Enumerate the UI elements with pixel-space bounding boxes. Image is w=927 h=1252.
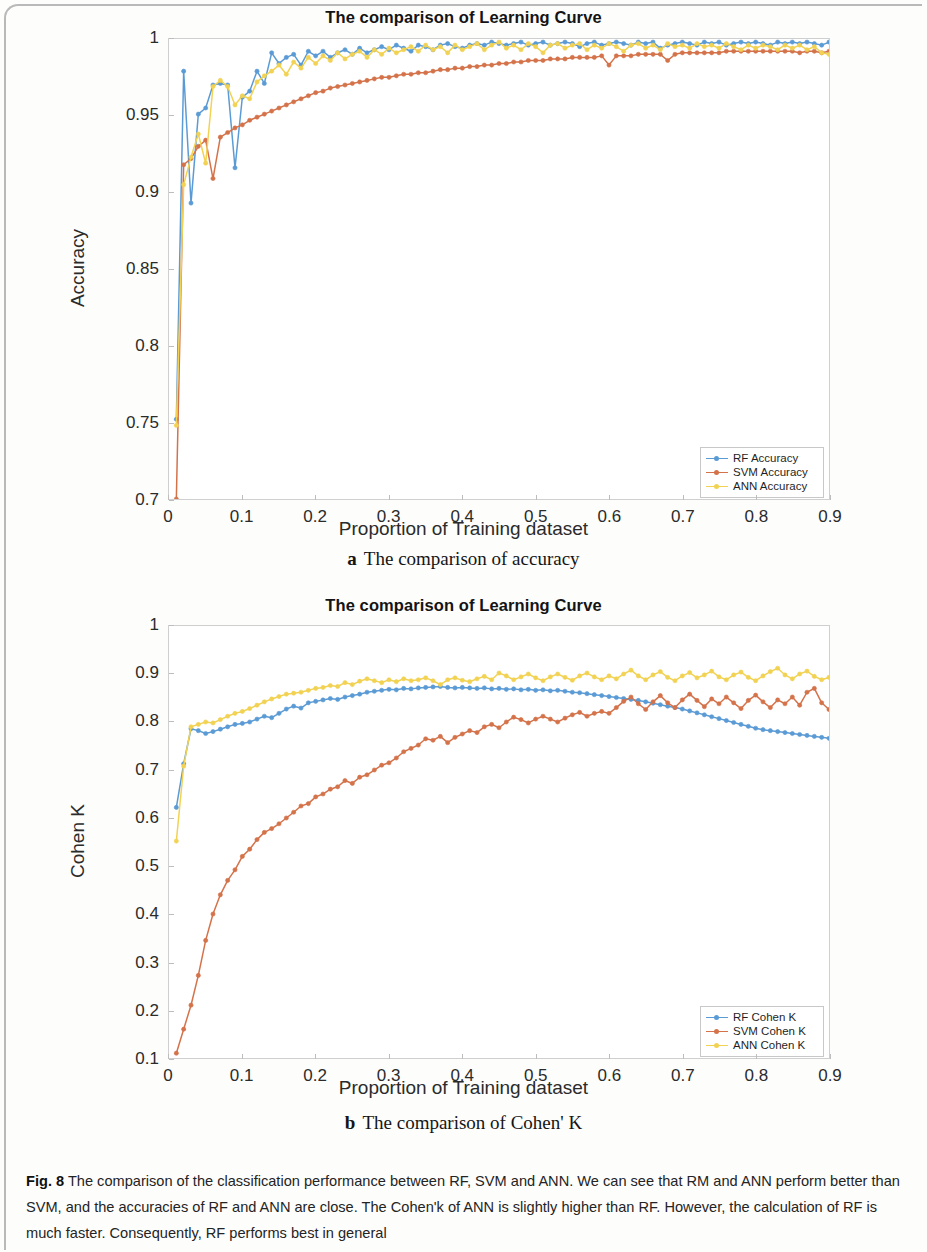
y-tick-label: 0.2: [135, 1001, 159, 1021]
legend-label: SVM Accuracy: [733, 466, 808, 478]
x-tick-label: 0.2: [303, 507, 327, 527]
x-tick-mark: [683, 495, 684, 500]
x-tick-label: 0.5: [524, 1066, 548, 1086]
y-tick-mark: [169, 115, 174, 116]
y-tick-label: 0.5: [135, 856, 159, 876]
series-rf-cohen-k: [174, 684, 829, 809]
x-tick-label: 0.6: [598, 507, 622, 527]
y-tick-mark: [169, 346, 174, 347]
y-tick-mark: [169, 38, 174, 39]
legend-label: RF Cohen K: [733, 1011, 796, 1023]
y-tick-label: 0.75: [126, 413, 159, 433]
y-tick-mark: [169, 818, 174, 819]
x-tick-mark: [609, 1054, 610, 1059]
legend-label: ANN Cohen K: [733, 1039, 805, 1051]
legend-item: SVM Accuracy: [706, 465, 817, 479]
x-tick-label: 0: [163, 507, 172, 527]
x-tick-label: 0.8: [745, 507, 769, 527]
y-tick-mark: [169, 866, 174, 867]
legend-line-marker-icon: [706, 486, 728, 487]
legend-label: RF Accuracy: [733, 452, 798, 464]
accuracy-plot-area: [168, 38, 830, 500]
y-tick-label: 0.8: [135, 711, 159, 731]
y-tick-mark: [169, 625, 174, 626]
x-tick-mark: [756, 495, 757, 500]
legend-item: RF Accuracy: [706, 451, 817, 465]
accuracy-y-axis-label: Accuracy: [67, 168, 89, 368]
y-tick-mark: [169, 269, 174, 270]
legend-line-marker-icon: [706, 472, 728, 473]
x-tick-label: 0.4: [450, 1066, 474, 1086]
x-tick-mark: [389, 1054, 390, 1059]
x-tick-mark: [683, 1054, 684, 1059]
cohen-k-chart-title: The comparison of Learning Curve: [0, 596, 927, 615]
x-tick-label: 0.6: [598, 1066, 622, 1086]
x-tick-label: 0.7: [671, 1066, 695, 1086]
y-tick-mark: [169, 721, 174, 722]
y-tick-label: 0.85: [126, 259, 159, 279]
cohen-k-chart: The comparison of Learning Curve Cohen K…: [0, 592, 927, 1112]
legend-item: RF Cohen K: [706, 1010, 817, 1024]
x-tick-mark: [315, 495, 316, 500]
accuracy-legend: RF AccuracySVM AccuracyANN Accuracy: [700, 447, 824, 498]
y-tick-label: 0.3: [135, 953, 159, 973]
x-tick-mark: [168, 1054, 169, 1059]
y-tick-mark: [169, 963, 174, 964]
y-tick-mark: [169, 770, 174, 771]
x-tick-mark: [242, 495, 243, 500]
y-tick-label: 0.9: [135, 663, 159, 683]
y-tick-label: 0.8: [135, 336, 159, 356]
legend-line-marker-icon: [706, 1045, 728, 1046]
legend-label: ANN Accuracy: [733, 480, 807, 492]
series-svm-cohen-k: [174, 686, 829, 1055]
subcaption-b-letter: b: [345, 1112, 356, 1133]
x-tick-mark: [536, 495, 537, 500]
x-tick-mark: [168, 495, 169, 500]
x-tick-mark: [462, 1054, 463, 1059]
x-tick-label: 0.5: [524, 507, 548, 527]
series-svm-accuracy: [174, 49, 829, 499]
y-tick-label: 1: [150, 28, 159, 48]
x-tick-label: 0.4: [450, 507, 474, 527]
y-tick-mark: [169, 192, 174, 193]
x-tick-label: 0.2: [303, 1066, 327, 1086]
x-tick-mark: [536, 1054, 537, 1059]
x-tick-mark: [830, 1054, 831, 1059]
x-tick-mark: [830, 495, 831, 500]
y-tick-mark: [169, 500, 174, 501]
x-tick-mark: [609, 495, 610, 500]
y-tick-mark: [169, 673, 174, 674]
legend-item: SVM Cohen K: [706, 1024, 817, 1038]
x-tick-mark: [315, 1054, 316, 1059]
series-ann-accuracy: [174, 40, 829, 428]
x-tick-mark: [242, 1054, 243, 1059]
y-tick-label: 0.95: [126, 105, 159, 125]
y-tick-mark: [169, 1011, 174, 1012]
figure-8: The comparison of Learning Curve Accurac…: [0, 0, 927, 1252]
y-tick-mark: [169, 423, 174, 424]
subcaption-b-text: The comparison of Cohen' K: [362, 1112, 582, 1133]
accuracy-chart: The comparison of Learning Curve Accurac…: [0, 0, 927, 560]
y-tick-label: 0.1: [135, 1049, 159, 1069]
x-tick-label: 0.7: [671, 507, 695, 527]
x-tick-label: 0.9: [818, 507, 842, 527]
legend-line-marker-icon: [706, 1017, 728, 1018]
y-tick-label: 0.7: [135, 760, 159, 780]
figure-caption-label: Fig. 8: [26, 1173, 64, 1189]
subcaption-a-letter: a: [347, 548, 357, 569]
cohen-k-y-axis-label: Cohen K: [67, 741, 89, 941]
x-tick-mark: [756, 1054, 757, 1059]
x-tick-mark: [462, 495, 463, 500]
y-tick-mark: [169, 914, 174, 915]
cohen-k-plot-area: [168, 625, 830, 1059]
x-tick-label: 0: [163, 1066, 172, 1086]
subcaption-a-text: The comparison of accuracy: [364, 548, 580, 569]
figure-caption-text: The comparison of the classification per…: [26, 1173, 900, 1241]
scanned-page: The comparison of Learning Curve Accurac…: [0, 0, 927, 1252]
x-tick-label: 0.3: [377, 507, 401, 527]
cohen-k-legend: RF Cohen KSVM Cohen KANN Cohen K: [700, 1006, 824, 1057]
y-tick-label: 0.9: [135, 182, 159, 202]
x-tick-label: 0.1: [230, 507, 254, 527]
y-tick-label: 0.7: [135, 490, 159, 510]
accuracy-chart-title: The comparison of Learning Curve: [0, 8, 927, 27]
